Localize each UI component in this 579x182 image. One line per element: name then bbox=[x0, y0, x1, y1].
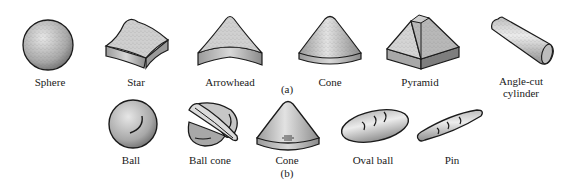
ball-cone-shape bbox=[185, 100, 241, 150]
label-ball: Ball bbox=[122, 154, 140, 166]
label-arrowhead: Arrowhead bbox=[205, 76, 254, 88]
label-oval-ball: Oval ball bbox=[353, 154, 394, 166]
label-angle-cut-cylinder-2: cylinder bbox=[503, 87, 539, 99]
label-cone-b: Cone bbox=[275, 154, 298, 166]
arrowhead-shape bbox=[196, 13, 264, 69]
label-pin: Pin bbox=[445, 154, 460, 166]
label-angle-cut-cylinder-1: Angle-cut bbox=[499, 75, 543, 87]
label-star: Star bbox=[127, 76, 145, 88]
caption-b: (b) bbox=[281, 167, 294, 179]
star-shape bbox=[104, 14, 170, 70]
pin-shape bbox=[415, 108, 485, 144]
oval-ball-shape bbox=[340, 106, 410, 146]
caption-a: (a) bbox=[281, 83, 293, 95]
label-ball-cone: Ball cone bbox=[189, 154, 231, 166]
label-cone-a: Cone bbox=[318, 76, 341, 88]
cone-shape bbox=[297, 13, 363, 65]
label-sphere: Sphere bbox=[35, 76, 66, 88]
sphere-shape bbox=[22, 19, 76, 73]
abrasive-shapes-figure: Sphere Star Arrowhead (a) Cone Pyramid A… bbox=[0, 0, 579, 182]
cone-b-shape bbox=[255, 100, 321, 152]
pyramid-shape bbox=[385, 13, 461, 69]
label-pyramid: Pyramid bbox=[401, 76, 438, 88]
angle-cut-cylinder-shape bbox=[488, 15, 558, 65]
ball-shape bbox=[108, 100, 160, 150]
